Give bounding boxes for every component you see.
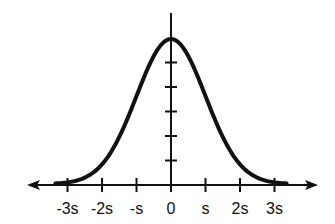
bell-curve-diagram: -3s-2s-s0s2s3s bbox=[0, 0, 335, 224]
x-tick-label: -s bbox=[130, 200, 143, 217]
x-tick-label: -3s bbox=[56, 200, 78, 217]
x-tick-label: 3s bbox=[266, 200, 283, 217]
x-axis-tick-labels: -3s-2s-s0s2s3s bbox=[56, 200, 283, 217]
x-tick-label: 2s bbox=[232, 200, 249, 217]
x-tick-label: -2s bbox=[91, 200, 113, 217]
x-tick-label: s bbox=[202, 200, 210, 217]
x-tick-label: 0 bbox=[167, 200, 176, 217]
